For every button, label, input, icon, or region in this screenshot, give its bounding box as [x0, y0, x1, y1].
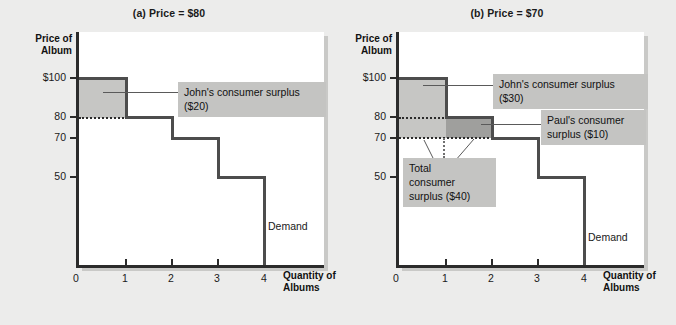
demand-step-4 [217, 176, 266, 179]
x-tick-label-3: 3 [203, 272, 231, 284]
demand-step-3 [171, 137, 220, 140]
price-reference-line-80 [79, 117, 127, 119]
x-tick-label-2: 2 [157, 272, 185, 284]
y-tick-100 [70, 77, 77, 79]
john-surplus-region [79, 79, 126, 118]
total-surplus-callout: Total consumer surplus ($40) [403, 158, 496, 207]
demand-step-1 [78, 77, 128, 80]
panel-b: (b) Price = $70 Price of Album $100 80 7… [338, 0, 676, 325]
demand-drop-4 [263, 176, 266, 268]
x-tick-label-0: 0 [62, 272, 90, 284]
john-surplus-callout: John's consumer surplus ($20) [178, 82, 326, 117]
john-callout-leader [103, 92, 180, 93]
y-tick-70 [70, 137, 77, 139]
y-tick-label-80: 80 [10, 110, 66, 122]
total-callout-leader [338, 0, 676, 325]
demand-step-2 [125, 116, 174, 119]
y-tick-label-70: 70 [10, 131, 66, 143]
consumer-surplus-figure: (a) Price = $80 Price of Album $100 80 7… [0, 0, 676, 325]
x-tick-1 [125, 259, 127, 266]
y-tick-label-50: 50 [10, 170, 66, 182]
panel-a-title: (a) Price = $80 [0, 7, 338, 19]
x-tick-3 [217, 259, 219, 266]
y-tick-80 [70, 116, 77, 118]
panel-a: (a) Price = $80 Price of Album $100 80 7… [0, 0, 338, 325]
x-tick-label-1: 1 [111, 272, 139, 284]
y-tick-label-100: $100 [10, 71, 66, 83]
demand-curve-label: Demand [268, 220, 308, 232]
x-axis-title: Quantity of Albums [283, 270, 343, 294]
y-tick-50 [70, 176, 77, 178]
demand-drop-3 [217, 137, 220, 179]
x-axis [76, 265, 324, 268]
y-axis-title: Price of Album [4, 33, 72, 57]
x-tick-label-4: 4 [250, 272, 278, 284]
y-axis [76, 32, 79, 268]
x-tick-2 [171, 259, 173, 266]
demand-drop-1 [125, 77, 128, 119]
